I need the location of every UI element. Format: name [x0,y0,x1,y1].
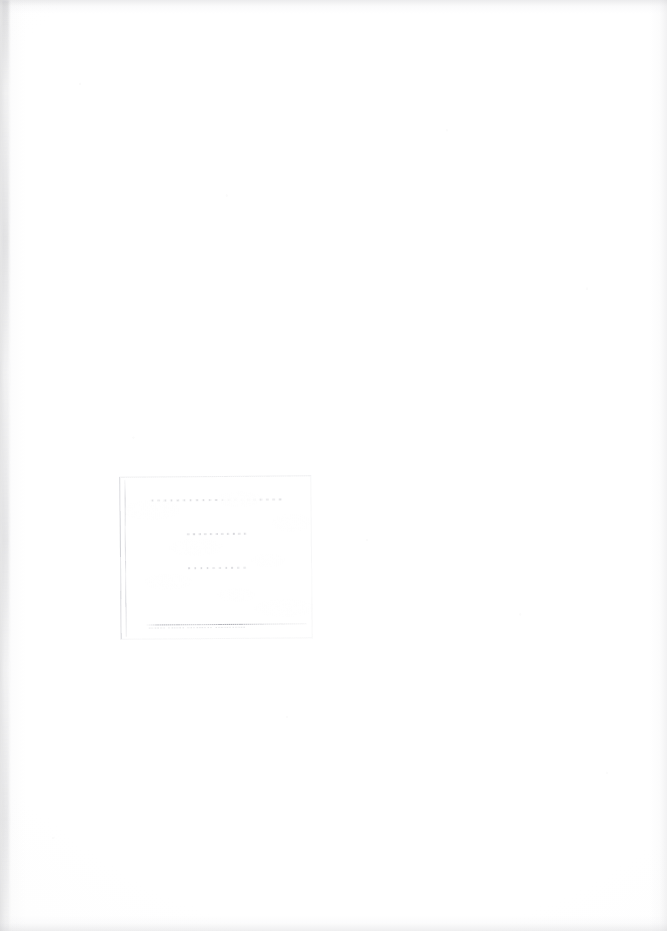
stamp-line-1: ····················· [131,491,303,508]
scan-edge-shadow-right [649,0,667,931]
scan-edge-shadow-top [0,0,667,14]
scan-edge-shadow-left [0,0,26,931]
stamp-fineprint: ······ ······ ········· ··········· [149,623,307,631]
stamp-line-2: ··········· [132,526,304,542]
stamp-text-block: ····················· ··········· ······… [131,491,304,629]
stamp-line-3: ·········· [132,560,304,576]
paper-speckle-texture [0,0,667,931]
scanned-page: ····················· ··········· ······… [0,0,667,931]
scan-edge-shadow-bottom [0,915,667,931]
library-ownership-stamp: ····················· ··········· ······… [119,475,312,640]
